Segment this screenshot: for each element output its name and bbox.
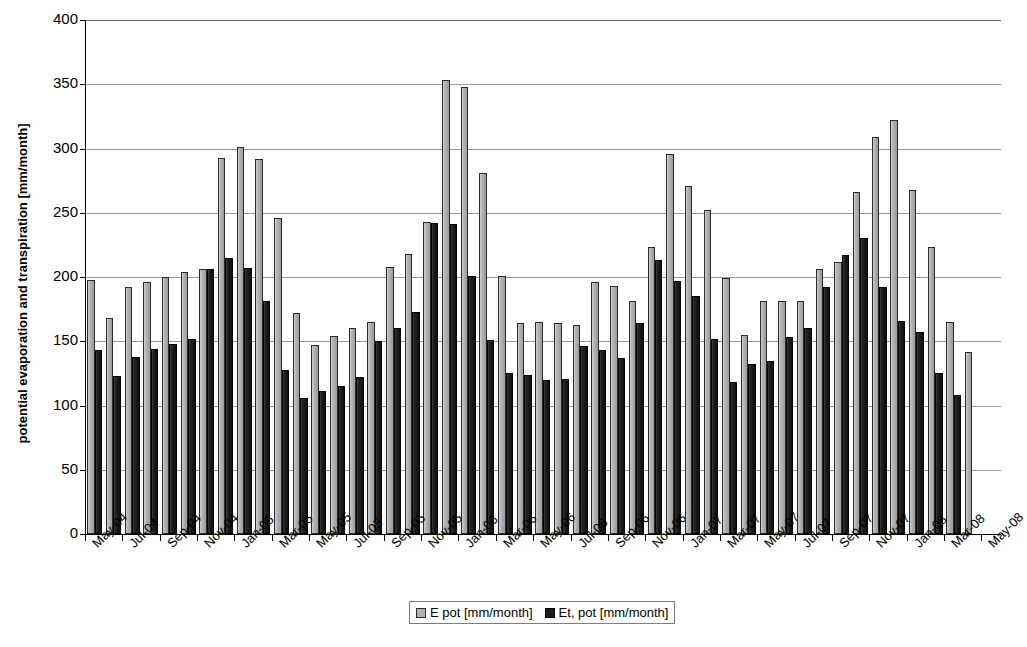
- bar-group: [982, 20, 1001, 534]
- bar-etpot: [244, 268, 251, 534]
- bar-etpot: [207, 269, 214, 534]
- bar-epot: [591, 282, 598, 534]
- bar-epot: [610, 286, 617, 534]
- bar-etpot: [916, 332, 923, 534]
- bar-group: [310, 20, 329, 534]
- bar-etpot: [225, 258, 232, 534]
- bar-group: [291, 20, 310, 534]
- bar-group: [740, 20, 759, 534]
- bar-group: [534, 20, 553, 534]
- bar-group: [852, 20, 871, 534]
- bar-group: [964, 20, 983, 534]
- bar-epot: [629, 301, 636, 534]
- bar-etpot: [319, 391, 326, 534]
- bar-group: [889, 20, 908, 534]
- bar-group: [105, 20, 124, 534]
- y-tick-label: 150: [26, 331, 78, 348]
- bar-epot: [685, 186, 692, 534]
- bar-etpot: [132, 357, 139, 534]
- bar-group: [758, 20, 777, 534]
- bar-epot: [517, 323, 524, 534]
- bar-etpot: [263, 301, 270, 534]
- bar-group: [385, 20, 404, 534]
- bar-etpot: [935, 373, 942, 534]
- bar-etpot: [860, 238, 867, 534]
- bar-group: [814, 20, 833, 534]
- bar-epot: [704, 210, 711, 534]
- bar-epot: [797, 301, 804, 534]
- bar-epot: [853, 192, 860, 534]
- bar-epot: [741, 335, 748, 534]
- bar-epot: [349, 328, 356, 534]
- bar-etpot: [580, 346, 587, 534]
- legend-item-etpot: Et, pot [mm/month]: [545, 605, 669, 620]
- bar-etpot: [692, 296, 699, 534]
- legend-swatch-epot: [416, 608, 426, 618]
- bar-epot: [255, 159, 262, 534]
- bar-epot: [274, 218, 281, 534]
- bar-group: [217, 20, 236, 534]
- bar-group: [179, 20, 198, 534]
- bar-etpot: [599, 350, 606, 534]
- bar-epot: [218, 158, 225, 535]
- bar-epot: [461, 87, 468, 534]
- bar-epot: [162, 277, 169, 534]
- bar-group: [422, 20, 441, 534]
- bar-etpot: [151, 349, 158, 534]
- bar-etpot: [169, 344, 176, 534]
- y-tick-label: 50: [26, 460, 78, 477]
- bar-epot: [498, 276, 505, 534]
- bar-etpot: [636, 323, 643, 534]
- bar-group: [198, 20, 217, 534]
- y-tick-label: 0: [26, 524, 78, 541]
- bar-etpot: [748, 364, 755, 534]
- bar-etpot: [879, 287, 886, 534]
- bar-epot: [199, 269, 206, 534]
- bar-epot: [423, 222, 430, 534]
- bar-group: [833, 20, 852, 534]
- bar-group: [609, 20, 628, 534]
- bar-epot: [535, 322, 542, 534]
- bar-epot: [405, 254, 412, 534]
- bar-epot: [648, 247, 655, 534]
- bar-group: [777, 20, 796, 534]
- bar-etpot: [506, 373, 513, 534]
- legend-label-epot: E pot [mm/month]: [430, 605, 533, 620]
- bar-epot: [479, 173, 486, 534]
- bar-group: [366, 20, 385, 534]
- bar-group: [646, 20, 665, 534]
- bar-etpot: [375, 341, 382, 534]
- bar-group: [628, 20, 647, 534]
- bar-group: [123, 20, 142, 534]
- bar-group: [926, 20, 945, 534]
- legend-item-epot: E pot [mm/month]: [416, 605, 533, 620]
- x-axis-labels: May-04Jul-04Sep-04Nov-04Jan-05Mar-05May-…: [85, 540, 1000, 602]
- legend-swatch-etpot: [545, 608, 555, 618]
- y-tick-label: 400: [26, 10, 78, 27]
- bar-epot: [909, 190, 916, 534]
- bar-etpot: [356, 377, 363, 534]
- bar-etpot: [786, 337, 793, 534]
- bar-etpot: [898, 321, 905, 534]
- bar-epot: [573, 325, 580, 534]
- bar-epot: [666, 154, 673, 534]
- bar-etpot: [730, 382, 737, 534]
- bar-etpot: [450, 224, 457, 534]
- bar-epot: [442, 80, 449, 534]
- bar-epot: [311, 345, 318, 534]
- y-tick-label: 350: [26, 74, 78, 91]
- bar-group: [945, 20, 964, 534]
- bar-epot: [125, 287, 132, 534]
- bar-group: [908, 20, 927, 534]
- bar-group: [796, 20, 815, 534]
- bar-etpot: [282, 370, 289, 534]
- bar-group: [142, 20, 161, 534]
- bar-group: [721, 20, 740, 534]
- y-tick-label: 250: [26, 203, 78, 220]
- bar-series-container: [86, 20, 1001, 534]
- bar-epot: [928, 247, 935, 534]
- bar-epot: [386, 267, 393, 534]
- bar-epot: [330, 336, 337, 534]
- bar-epot: [834, 262, 841, 534]
- bar-etpot: [655, 260, 662, 534]
